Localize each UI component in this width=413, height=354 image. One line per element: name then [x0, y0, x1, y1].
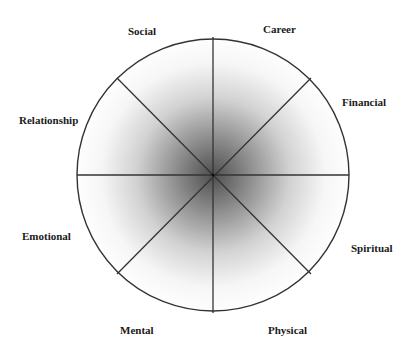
segment-label-mental: Mental: [120, 325, 154, 336]
segment-label-career: Career: [263, 24, 296, 35]
segment-label-spiritual: Spiritual: [351, 243, 393, 254]
center-point: [212, 174, 215, 177]
segment-label-social: Social: [128, 26, 156, 37]
segment-label-financial: Financial: [342, 97, 386, 108]
life-wheel-diagram: [0, 0, 413, 354]
segment-label-relationship: Relationship: [19, 115, 78, 126]
segment-label-physical: Physical: [268, 325, 307, 336]
segment-label-emotional: Emotional: [22, 231, 71, 242]
